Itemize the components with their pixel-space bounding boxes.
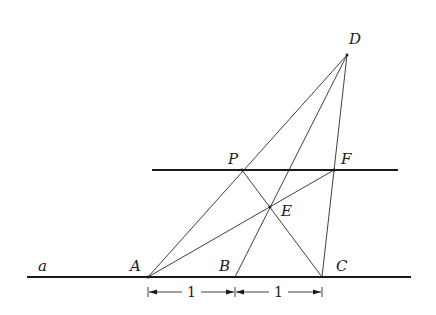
segment-PC — [242, 170, 322, 277]
dimension-AB: 1 — [148, 284, 235, 300]
point-label-P: P — [227, 150, 239, 168]
segment-AF — [148, 170, 334, 277]
dimension-AB-label: 1 — [187, 284, 196, 300]
point-label-B: B — [218, 257, 230, 275]
point-label-D: D — [348, 30, 361, 48]
point-F-dot — [333, 169, 336, 172]
point-A-dot — [146, 275, 149, 278]
segment-BD — [235, 55, 347, 277]
point-label-A: A — [128, 257, 141, 275]
geometry-diagram: 1 1 a A B C D P F E — [0, 0, 436, 315]
dimension-BC-label: 1 — [274, 284, 283, 300]
point-P-dot — [241, 169, 244, 172]
point-label-C: C — [336, 257, 348, 275]
line-label-a: a — [38, 257, 47, 275]
dimension-BC: 1 — [236, 284, 322, 300]
segment-AD — [148, 55, 347, 277]
point-label-E: E — [280, 202, 292, 220]
point-D-dot — [346, 54, 349, 57]
point-E-dot — [269, 206, 272, 209]
point-label-F: F — [340, 150, 352, 168]
